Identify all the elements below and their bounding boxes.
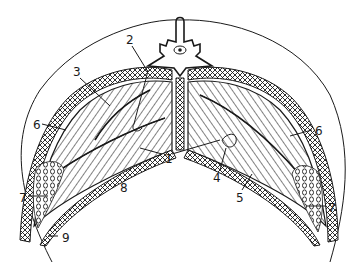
label-1: 1 xyxy=(165,152,173,166)
left-muscle-mass xyxy=(34,81,172,226)
anatomical-cross-section-diagram: 1 2 3 4 5 6 6 7 7 8 9 xyxy=(0,0,355,270)
label-2: 2 xyxy=(126,33,134,47)
label-6-left: 6 xyxy=(33,118,41,132)
medial-septum xyxy=(176,78,184,150)
label-6-right: 6 xyxy=(315,124,323,138)
label-7-left: 7 xyxy=(19,191,27,205)
label-5: 5 xyxy=(236,191,244,205)
label-4: 4 xyxy=(213,171,221,185)
label-8: 8 xyxy=(120,181,128,195)
label-7-right: 7 xyxy=(328,201,336,215)
label-3: 3 xyxy=(73,65,81,79)
label-9: 9 xyxy=(62,231,70,245)
